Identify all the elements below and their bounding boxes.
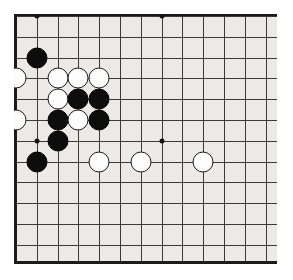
go-board-surface[interactable] (14, 14, 277, 264)
board-edge-left (14, 14, 17, 264)
white-stone-10[interactable] (193, 151, 214, 172)
grid-line-horizontal (14, 245, 277, 246)
hoshi-upper-left-icon (34, 14, 39, 19)
grid-line-vertical (182, 14, 183, 264)
black-stone-1[interactable] (26, 47, 47, 68)
grid-line-vertical (120, 14, 121, 264)
black-stone-2[interactable] (68, 89, 89, 110)
grid-line-horizontal (14, 224, 277, 225)
white-stone-5[interactable] (47, 89, 68, 110)
grid-line-vertical (245, 14, 246, 264)
black-stone-4[interactable] (47, 110, 68, 131)
black-stone-5[interactable] (89, 110, 110, 131)
white-stone-7[interactable] (68, 110, 89, 131)
white-stone-9[interactable] (130, 151, 151, 172)
white-stone-6[interactable] (14, 110, 27, 131)
white-stone-3[interactable] (68, 68, 89, 89)
grid-line-horizontal (14, 58, 277, 59)
hoshi-lower-left-icon (34, 138, 39, 143)
black-stone-3[interactable] (89, 89, 110, 110)
grid-line-vertical (99, 14, 100, 264)
hoshi-lower-middle-icon (159, 138, 164, 143)
go-board-diagram (0, 0, 293, 280)
white-stone-4[interactable] (89, 68, 110, 89)
white-stone-2[interactable] (47, 68, 68, 89)
black-stone-6[interactable] (47, 130, 68, 151)
grid-line-horizontal (14, 16, 277, 17)
grid-line-horizontal (14, 203, 277, 204)
hoshi-upper-middle-icon (159, 14, 164, 19)
black-stone-7[interactable] (26, 151, 47, 172)
grid-line-vertical (203, 14, 204, 264)
grid-line-vertical (141, 14, 142, 264)
white-stone-8[interactable] (89, 151, 110, 172)
white-stone-1[interactable] (14, 68, 27, 89)
board-edge-top (14, 14, 277, 16)
grid-line-horizontal (14, 37, 277, 38)
grid-line-vertical (78, 14, 79, 264)
grid-line-horizontal (14, 182, 277, 183)
board-edge-bottom (14, 261, 277, 264)
grid-line-vertical (224, 14, 225, 264)
grid-line-vertical (266, 14, 267, 264)
